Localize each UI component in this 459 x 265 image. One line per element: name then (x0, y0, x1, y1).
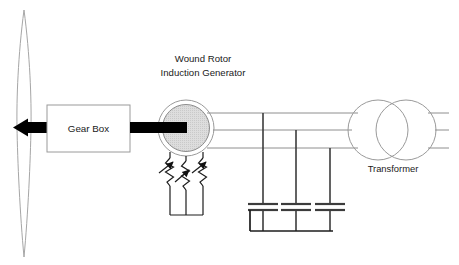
generator-label-line2: Induction Generator (161, 67, 247, 78)
gear-box-label: Gear Box (68, 123, 109, 134)
generator-label-line1: Wound Rotor (175, 53, 232, 64)
power-system-schematic: Gear Box Wound Rotor Induction Generator (0, 0, 459, 265)
transformer-label: Transformer (368, 163, 419, 174)
gear-box: Gear Box (47, 105, 130, 152)
diagram-canvas: Gear Box Wound Rotor Induction Generator (0, 0, 459, 265)
generator-shaft-stub (150, 122, 187, 133)
